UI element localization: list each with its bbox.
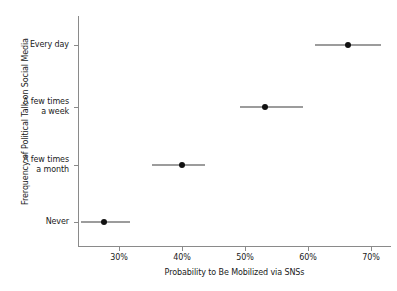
y-tick-label: A few times a week xyxy=(23,97,69,117)
x-tick-mark xyxy=(371,247,372,251)
y-tick-mark xyxy=(74,45,78,46)
y-tick-label: Every day xyxy=(30,40,69,50)
y-tick-mark xyxy=(74,165,78,166)
point-marker xyxy=(262,104,268,110)
x-tick-label: 50% xyxy=(236,253,253,262)
x-tick-mark xyxy=(119,247,120,251)
y-axis-title: Frerquency of Political Talk on Social M… xyxy=(21,12,30,232)
y-tick-label: Never xyxy=(46,217,69,227)
x-tick-mark xyxy=(182,247,183,251)
x-tick-label: 70% xyxy=(362,253,379,262)
x-tick-label: 40% xyxy=(173,253,190,262)
y-tick-mark xyxy=(74,222,78,223)
x-tick-label: 60% xyxy=(299,253,316,262)
point-marker xyxy=(179,162,185,168)
error-bar xyxy=(240,106,303,107)
plot-area xyxy=(78,17,390,247)
y-tick-mark xyxy=(74,107,78,108)
chart-figure: 30%40%50%60%70% Every dayA few times a w… xyxy=(0,0,397,291)
point-marker xyxy=(345,42,351,48)
x-tick-mark xyxy=(245,247,246,251)
x-tick-label: 30% xyxy=(110,253,127,262)
point-marker xyxy=(101,219,107,225)
y-tick-label: A few times a month xyxy=(23,155,69,175)
x-tick-mark xyxy=(308,247,309,251)
x-axis-title: Probability to Be Mobilized via SNSs xyxy=(78,268,391,277)
